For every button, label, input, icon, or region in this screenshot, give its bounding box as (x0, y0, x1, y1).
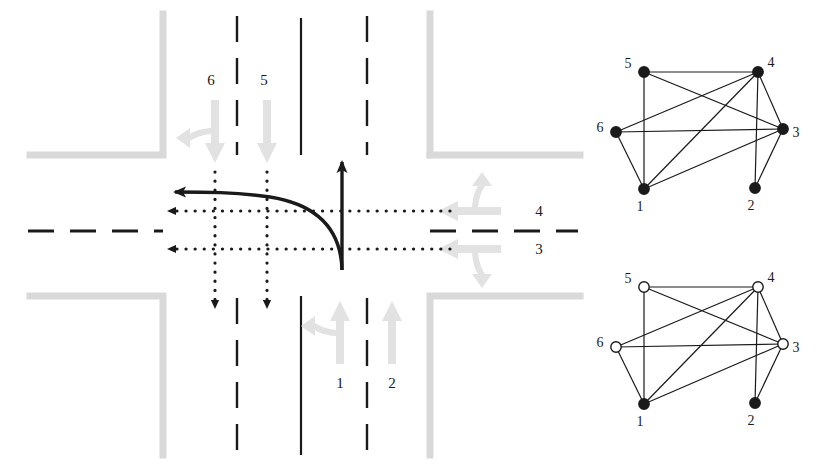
graph-edge-3-2 (755, 129, 783, 188)
graph-edges (616, 287, 783, 404)
lane-arrow-6 (176, 100, 225, 163)
lane-label-1: 1 (336, 375, 344, 391)
graph-node-label-4: 4 (768, 55, 775, 70)
graph-node-1[interactable] (639, 184, 649, 194)
lane-arrow-2 (382, 301, 402, 364)
lane-arrow-5 (257, 100, 277, 163)
graph-edge-4-6 (616, 72, 758, 132)
graph-edge-1-3 (644, 129, 783, 189)
graph-node-label-6: 6 (597, 120, 604, 135)
graph-node-2[interactable] (750, 398, 760, 408)
graph-node-label-3: 3 (793, 125, 800, 140)
solid-left-turn-arrow (175, 192, 342, 270)
curb-southwest (30, 296, 163, 455)
graphs-column: 123456 123456 (590, 0, 837, 469)
lane-label-4: 4 (535, 203, 543, 219)
graph-node-label-2: 2 (748, 198, 755, 213)
curb-lines (30, 14, 580, 455)
graph-edge-3-2 (755, 344, 783, 403)
graph-node-5[interactable] (639, 282, 649, 292)
graph-node-6[interactable] (611, 127, 621, 137)
lane-arrow-1 (301, 301, 350, 364)
graph-edge-6-1 (616, 132, 644, 189)
graph-node-label-6: 6 (597, 335, 604, 350)
graph-node-5[interactable] (639, 67, 649, 77)
lane-label-2: 2 (388, 375, 396, 391)
graph-node-3[interactable] (778, 339, 788, 349)
lane-arrow-3 (438, 239, 501, 288)
compatibility-graph-bottom: 123456 (590, 270, 837, 450)
graph-node-label-1: 1 (637, 414, 644, 429)
graph-node-label-4: 4 (768, 270, 775, 285)
graph-edge-4-6 (616, 287, 758, 347)
graph-node-2[interactable] (750, 183, 760, 193)
lane-label-3: 3 (535, 241, 543, 257)
curb-northwest (30, 14, 163, 155)
graph-node-4[interactable] (753, 282, 763, 292)
lane-label-5: 5 (260, 72, 268, 88)
subject-movement-paths (175, 162, 342, 270)
curb-southeast (430, 296, 580, 455)
graph-node-6[interactable] (611, 342, 621, 352)
graph-node-label-5: 5 (625, 271, 632, 286)
graph-node-label-1: 1 (637, 199, 644, 214)
graph-edge-6-1 (616, 347, 644, 404)
graph-node-label-5: 5 (625, 56, 632, 71)
intersection-diagram: 6 5 4 3 1 2 (0, 0, 600, 469)
graph-edges (616, 72, 783, 189)
graph-node-3[interactable] (778, 124, 788, 134)
graph-node-label-3: 3 (793, 340, 800, 355)
lane-label-6: 6 (207, 72, 215, 88)
lane-arrow-4 (438, 172, 501, 221)
figure-canvas: 6 5 4 3 1 2 123456 123456 (0, 0, 837, 469)
compatibility-graph-top: 123456 (590, 55, 837, 235)
graph-edge-1-3 (644, 344, 783, 404)
graph-node-4[interactable] (753, 67, 763, 77)
graph-node-1[interactable] (639, 399, 649, 409)
graph-node-label-2: 2 (748, 413, 755, 428)
